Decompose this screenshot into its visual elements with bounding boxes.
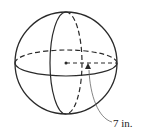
equator-front: [15, 63, 117, 76]
sphere-diagram: [0, 0, 142, 130]
leader-line: [89, 70, 112, 122]
meridian-front: [50, 12, 66, 114]
equator-back: [15, 50, 117, 63]
radius-label: 7 in.: [113, 117, 133, 129]
radius-arrow-icon: [85, 63, 91, 69]
